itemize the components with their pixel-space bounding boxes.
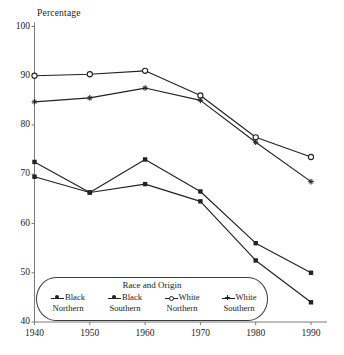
line-chart: Percentage 405060708090100 1940195019601…: [0, 0, 344, 355]
data-point: [88, 190, 92, 194]
legend-label-line2: Southern: [210, 303, 268, 314]
series-black-northern: [32, 157, 313, 275]
series-white-southern: [32, 85, 314, 184]
legend-label-line1: White: [179, 292, 200, 302]
data-point: [308, 154, 313, 159]
data-point: [198, 93, 203, 98]
data-point: [143, 182, 147, 186]
legend-label-line2: Northern: [39, 303, 97, 314]
data-point: [253, 135, 258, 140]
legend-item-black-southern[interactable]: BlackSouthern: [96, 292, 154, 313]
data-point: [32, 175, 36, 179]
series-line: [35, 88, 312, 182]
legend-marker-icon: [222, 294, 235, 302]
legend-item-white-southern[interactable]: WhiteSouthern: [210, 292, 268, 313]
series-line: [35, 159, 312, 272]
data-point: [309, 300, 313, 304]
series-line: [35, 71, 312, 157]
data-point: [254, 258, 258, 262]
legend-title: Race and Origin: [37, 280, 267, 290]
data-point: [32, 160, 36, 164]
data-point: [143, 68, 148, 73]
data-point: [309, 271, 313, 275]
data-point: [143, 157, 147, 161]
legend-label-line1: Black: [122, 292, 142, 302]
legend-label-line1: White: [236, 292, 257, 302]
legend-label-line1: Black: [65, 292, 85, 302]
legend-label-line2: Northern: [153, 303, 211, 314]
data-point: [254, 241, 258, 245]
data-point: [198, 199, 202, 203]
data-point: [87, 72, 92, 77]
data-point: [32, 73, 37, 78]
legend-item-white-northern[interactable]: WhiteNorthern: [153, 292, 211, 313]
series-white-northern: [32, 68, 314, 159]
legend-item-black-northern[interactable]: BlackNorthern: [39, 292, 97, 313]
legend-marker-icon: [108, 294, 121, 302]
legend-marker-icon: [165, 294, 178, 302]
legend-marker-icon: [51, 294, 64, 302]
data-point: [198, 189, 202, 193]
legend-label-line2: Southern: [96, 303, 154, 314]
chart-legend: Race and Origin BlackNorthernBlackSouthe…: [36, 277, 268, 321]
